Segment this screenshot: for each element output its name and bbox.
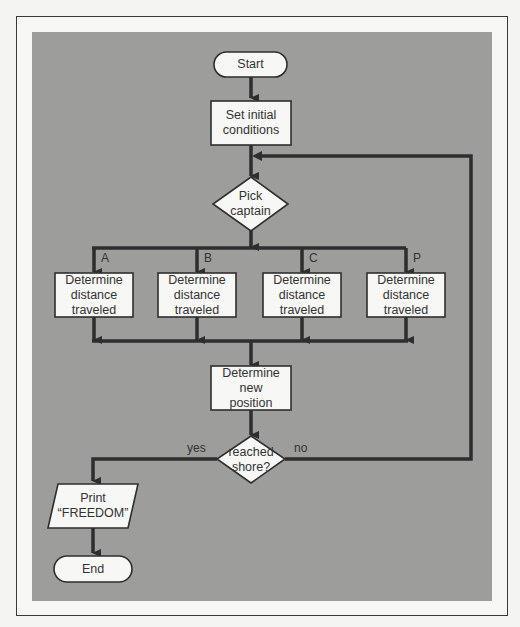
reached-shore-decision: reached shore? (217, 436, 285, 483)
distance-node-c: Determine distance traveled (263, 273, 341, 317)
end-node: End (54, 556, 132, 582)
start-node: Start (214, 52, 287, 77)
new-position-node: Determine new position (211, 366, 291, 410)
no-edge-label: no (294, 441, 307, 455)
distance-node-b: Determine distance traveled (158, 273, 236, 317)
branch-label-p: P (413, 251, 421, 265)
print-freedom-node: Print “FREEDOM” (48, 484, 138, 528)
pick-captain-decision: Pick captain (213, 177, 288, 231)
yes-edge-label: yes (187, 441, 206, 455)
distance-node-p: Determine distance traveled (367, 273, 445, 317)
distance-node-a: Determine distance traveled (55, 273, 133, 317)
branch-label-a: A (101, 251, 109, 265)
branch-label-c: C (309, 251, 318, 265)
set-initial-conditions-node: Set initial conditions (211, 101, 291, 145)
branch-label-b: B (204, 251, 212, 265)
